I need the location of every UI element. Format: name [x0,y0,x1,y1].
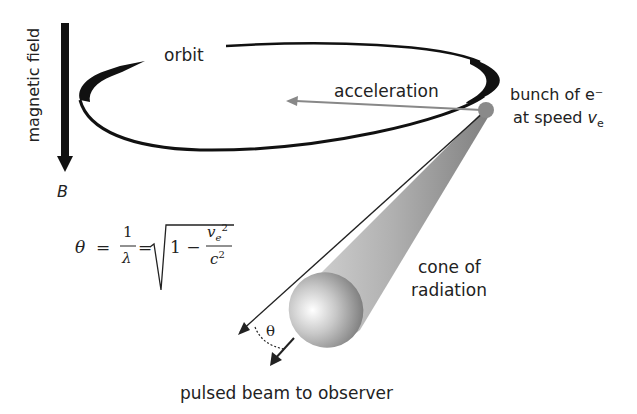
cone-label-line2: radiation [411,280,487,300]
cone-label-line1: cone of [418,257,481,277]
radiation-cone [238,112,490,362]
formula-eq2: = [138,237,152,257]
magnetic-field-arrow [57,23,73,172]
formula-v-sup: 2 [221,222,227,233]
formula-eq1: = [96,237,110,257]
formula-v-sub: e [215,232,221,243]
acceleration-label: acceleration [334,81,439,101]
synchrotron-radiation-diagram: magnetic field B orbit acceleration bunc… [0,0,637,414]
formula-theta: θ [75,237,85,257]
formula-v-term: ve2 [207,222,228,243]
diagram-graphics [0,0,637,414]
bunch-speed-v: v [588,108,597,127]
formula-one-minus: 1 − [170,237,200,257]
bunch-speed-prefix: at speed [513,108,588,127]
formula-denominator: λ [122,249,132,267]
theta-angle-label: θ [266,322,275,340]
orbit-label: orbit [164,45,204,65]
magnetic-field-label: magnetic field [24,33,43,143]
pulsed-beam-arrow [270,338,294,366]
field-B-label: B [57,182,68,201]
bunch-speed-sub: e [597,117,604,130]
bunch-label-line2: at speed ve [513,108,604,130]
formula-c-sup: 2 [218,249,224,260]
electron-bunch [478,102,494,118]
formula-c-term: c2 [210,249,225,268]
bunch-label-line1: bunch of e⁻ [510,85,603,104]
formula-numerator: 1 [123,223,133,241]
pulsed-beam-label: pulsed beam to observer [180,383,393,403]
